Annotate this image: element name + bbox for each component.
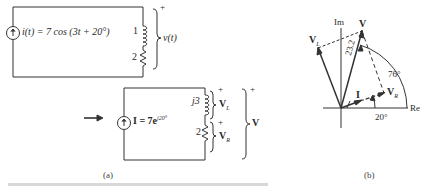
phasor-vl — [318, 48, 341, 108]
bottom-inductor — [205, 95, 209, 117]
vl-label: VL — [219, 98, 230, 111]
bottom-resistor-value: 2 — [196, 126, 201, 137]
v-label: V — [252, 117, 259, 128]
vr-plus-sign: + — [218, 117, 223, 127]
bottom-resistor — [202, 125, 208, 143]
source-exponent: j20° — [157, 115, 167, 121]
top-plus-sign: + — [160, 2, 165, 12]
truncated-figure-caption — [8, 183, 268, 186]
phasor-vl-label: VL — [309, 34, 320, 47]
phasor-i-label: I — [356, 89, 360, 100]
top-resistor-value: 2 — [132, 51, 137, 62]
vr-label: VR — [219, 130, 230, 143]
top-inductor — [143, 26, 147, 46]
phasor-v-label: V — [359, 18, 366, 29]
v-plus-sign: + — [250, 84, 255, 94]
caption-a: (a) — [103, 170, 113, 180]
real-axis-label: Re — [410, 103, 420, 113]
angle-76-label: 76° — [388, 69, 401, 79]
top-inductor-value: 1 — [133, 25, 138, 36]
bottom-inductor-value: j3 — [192, 95, 200, 106]
vr-brace — [210, 122, 216, 152]
top-resistor — [140, 50, 146, 68]
imag-axis-label: Im — [334, 17, 344, 27]
angle-20-label: 20° — [375, 112, 388, 122]
phasor-current-expr: I = 7e — [133, 115, 157, 126]
v-brace — [242, 89, 250, 159]
top-voltage-label: v(t) — [163, 32, 177, 43]
bottom-source-label: I = 7ej20° — [133, 115, 167, 126]
phasor-vr-label: VR — [387, 86, 398, 99]
top-voltage-brace — [153, 9, 161, 69]
caption-b: (b) — [364, 170, 375, 180]
vl-brace — [210, 91, 216, 119]
top-source-label: i(t) = 7 cos (3t + 20°) — [22, 26, 109, 37]
top-circuit-wire — [13, 7, 143, 77]
vl-plus-sign: + — [218, 84, 223, 94]
